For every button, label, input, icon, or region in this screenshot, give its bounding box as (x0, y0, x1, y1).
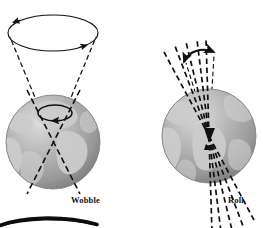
figure-root: Wobble Roll (0, 0, 263, 228)
panel-label-wobble: Wobble (71, 196, 100, 205)
panel-label-roll: Roll (228, 196, 244, 205)
earth-axis-diagram (0, 0, 263, 228)
